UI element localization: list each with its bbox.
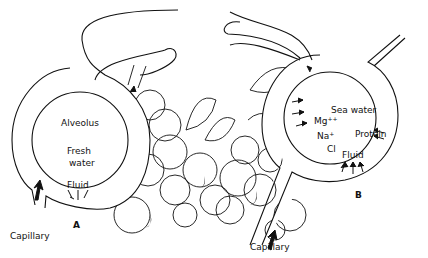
mg-charge: ++ [327, 115, 337, 122]
capillary-label-a: Capillary [10, 231, 50, 241]
protein-label: Protein [355, 129, 387, 139]
panel-b-letter: B [355, 190, 362, 200]
na-text: Na [317, 131, 329, 141]
fluid-label-a: Fluid [67, 180, 89, 190]
fresh-label: Fresh [67, 146, 91, 156]
fluid-label-b: Fluid [342, 150, 364, 160]
water-label: water [69, 158, 95, 168]
na-charge: + [329, 130, 334, 137]
na-ion-label: Na+ [317, 131, 334, 141]
mg-text: Mg [314, 116, 327, 126]
drowning-alveolus-diagram: Alveolus Fresh water Fluid A Capillary S… [0, 0, 428, 258]
cl-ion-label: Cl [327, 144, 336, 154]
mg-ion-label: Mg++ [314, 116, 338, 126]
capillary-label-b: Capillary [250, 242, 290, 252]
alveolus-label: Alveolus [61, 118, 99, 128]
panel-a-letter: A [73, 220, 80, 230]
sea-water-label: Sea water [331, 105, 376, 115]
alveolus-a [12, 10, 178, 209]
